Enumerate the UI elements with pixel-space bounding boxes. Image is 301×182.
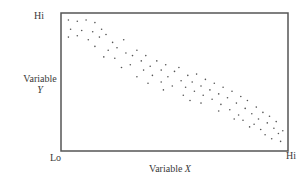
data-point (160, 69, 162, 71)
data-point (132, 55, 134, 57)
data-point (143, 69, 145, 71)
data-point (244, 108, 246, 110)
data-point (240, 96, 242, 98)
data-point (160, 81, 162, 83)
data-point (136, 50, 138, 52)
data-point (77, 35, 79, 37)
data-point (200, 102, 202, 104)
data-point (85, 19, 87, 21)
data-point (189, 100, 191, 102)
data-point (77, 21, 79, 23)
data-point (107, 50, 109, 52)
data-point (202, 94, 204, 96)
data-point (282, 130, 284, 132)
data-point (156, 60, 158, 62)
data-point (81, 30, 83, 32)
data-point (280, 141, 282, 143)
data-point (218, 93, 220, 95)
data-point (123, 39, 125, 41)
data-point (233, 118, 235, 120)
data-point (185, 87, 187, 89)
data-point (220, 104, 222, 106)
data-point (214, 83, 216, 85)
data-point (172, 85, 174, 87)
data-point (251, 113, 253, 115)
data-point (196, 73, 198, 75)
x-axis-title-word: Variable (149, 163, 185, 174)
data-point (99, 36, 101, 38)
data-point (125, 52, 127, 54)
data-point (262, 112, 264, 114)
data-point (187, 75, 189, 77)
data-point (255, 106, 257, 108)
data-point (260, 129, 262, 131)
y-axis-variable: Y (16, 84, 64, 95)
x-axis-title: Variable X (120, 163, 220, 174)
data-point (236, 102, 238, 104)
data-point (211, 98, 213, 100)
data-point (269, 116, 271, 118)
data-point (116, 47, 118, 49)
data-point (249, 126, 251, 128)
data-point (130, 64, 132, 66)
data-point (183, 94, 185, 96)
data-point (88, 39, 90, 41)
data-point (218, 110, 220, 112)
origin-lo-label: Lo (50, 152, 61, 163)
data-point (242, 120, 244, 122)
data-point (105, 34, 107, 36)
data-point (174, 71, 176, 73)
data-point (103, 56, 105, 58)
data-point (247, 100, 249, 102)
data-point (191, 81, 193, 83)
data-point (178, 67, 180, 69)
data-point (94, 22, 96, 24)
data-point (149, 65, 151, 67)
y-axis-hi-label: Hi (34, 10, 44, 21)
data-point (70, 28, 72, 30)
data-point (205, 79, 207, 81)
data-point (92, 31, 94, 33)
data-point (152, 75, 154, 77)
data-point (258, 118, 260, 120)
data-point (68, 19, 70, 21)
data-point (167, 76, 169, 78)
x-axis-hi-label: Hi (286, 150, 296, 161)
data-point (94, 46, 96, 48)
data-point (121, 67, 123, 69)
data-point (264, 134, 266, 136)
data-point (271, 138, 273, 140)
data-point (114, 57, 116, 59)
plot-frame (61, 13, 288, 151)
data-point (68, 36, 70, 38)
data-point (278, 133, 280, 135)
data-point (231, 90, 233, 92)
data-point (112, 42, 114, 44)
data-point (253, 123, 255, 125)
data-point (141, 60, 143, 62)
data-point (194, 90, 196, 92)
data-point (101, 28, 103, 30)
data-point (275, 121, 277, 123)
data-point (200, 85, 202, 87)
data-points (68, 19, 284, 142)
data-point (136, 76, 138, 78)
data-point (267, 122, 269, 124)
data-point (273, 127, 275, 129)
data-point (180, 80, 182, 82)
data-point (229, 109, 231, 111)
data-point (163, 89, 165, 91)
data-point (147, 83, 149, 85)
data-point (209, 89, 211, 91)
data-point (222, 87, 224, 89)
y-axis-title: Variable Y (16, 73, 64, 95)
data-point (238, 114, 240, 116)
y-axis-title-word: Variable (16, 73, 64, 84)
data-point (145, 55, 147, 57)
x-axis-variable: X (185, 163, 191, 174)
data-point (227, 97, 229, 99)
data-point (165, 64, 167, 66)
